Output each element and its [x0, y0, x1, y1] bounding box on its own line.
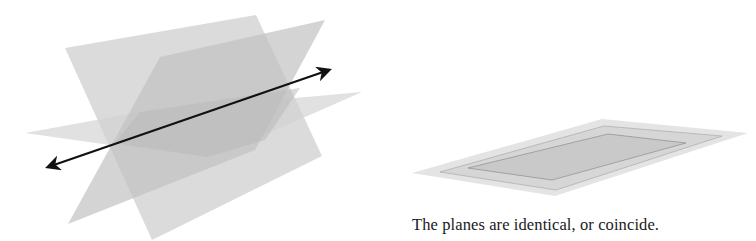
- coincident-planes-figure: [380, 0, 756, 241]
- coincide-caption: The planes are identical, or coincide.: [412, 215, 659, 235]
- intersecting-planes-figure: [0, 0, 380, 241]
